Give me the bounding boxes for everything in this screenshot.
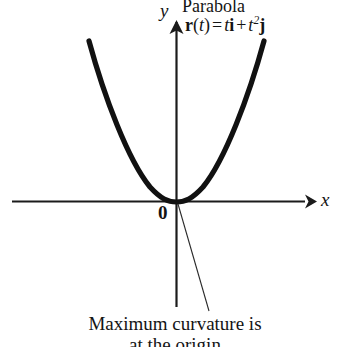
equation-equals: = xyxy=(210,15,224,35)
equation-plus: + xyxy=(234,15,248,35)
figure-caption-line-1: Maximum curvature is xyxy=(0,313,346,334)
y-axis xyxy=(170,20,184,307)
equation-term2-unit-vector-j: j xyxy=(259,15,265,35)
figure-caption-line-2: at the origin xyxy=(0,334,346,347)
caption-leader-line xyxy=(178,204,209,311)
x-axis-label: x xyxy=(321,190,329,209)
equation-vector-r: r xyxy=(185,15,193,35)
parabola-curvature-figure: y x Parabola r(t)=ti+t2j 0 Maximum curva… xyxy=(0,0,346,347)
x-axis-arrowhead-icon xyxy=(305,195,317,209)
plot-canvas xyxy=(0,0,346,347)
figure-caption: Maximum curvature is at the origin xyxy=(0,313,346,347)
origin-label: 0 xyxy=(158,203,168,222)
curve-title-label: Parabola xyxy=(182,0,245,15)
curve-equation-label: r(t)=ti+t2j xyxy=(185,15,265,34)
y-axis-label: y xyxy=(160,1,168,20)
